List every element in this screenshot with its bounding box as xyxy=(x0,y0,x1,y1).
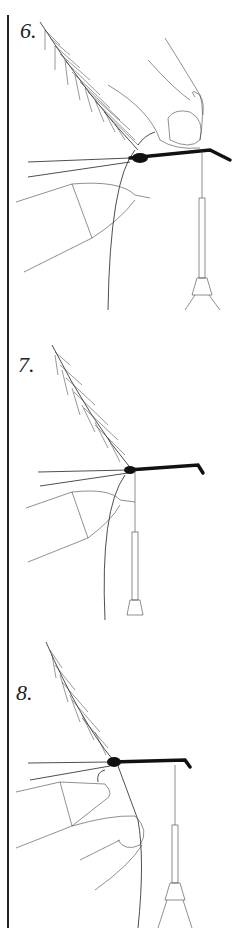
step-6-panel: 6. xyxy=(0,0,240,310)
step-8-panel: 8. xyxy=(0,620,240,928)
step-7-panel: 7. xyxy=(0,310,240,620)
feather-icon xyxy=(46,642,113,760)
feather-icon xyxy=(52,345,132,470)
feather-icon xyxy=(40,22,138,150)
step-8-drawing xyxy=(0,620,240,928)
step-6-drawing xyxy=(0,0,240,310)
step-7-drawing xyxy=(0,310,240,620)
